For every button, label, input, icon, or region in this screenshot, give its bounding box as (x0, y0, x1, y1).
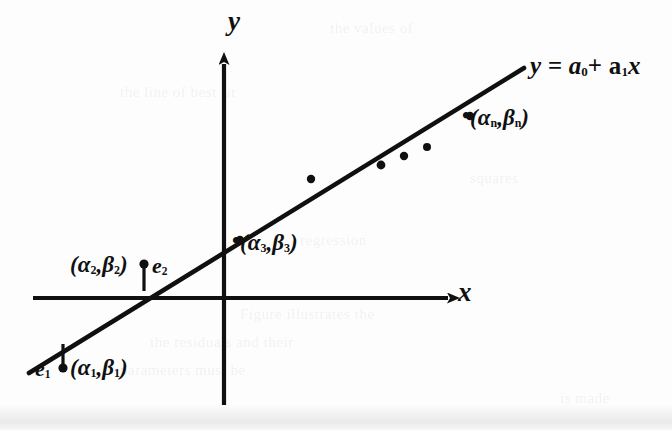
regression-equation-label: y = a0+ a1x (530, 52, 641, 80)
beta-symbol: β (102, 355, 114, 380)
error-subscript: 1 (45, 368, 51, 380)
alpha-symbol: α (248, 230, 261, 255)
data-point-alpha-1 (58, 363, 67, 372)
beta-symbol: β (272, 230, 284, 255)
paren-open: ( (240, 230, 248, 255)
beta-symbol: β (102, 252, 114, 277)
paren-open: ( (70, 355, 78, 380)
y-axis-label: y (228, 6, 240, 37)
residual-label-e1: e1 (35, 356, 50, 382)
equation-plus-term: + a (588, 52, 622, 79)
error-letter: e (152, 253, 162, 278)
point-label-alpha-3: •(α3,β3) (232, 228, 298, 256)
paren-close: ) (290, 230, 298, 255)
paren-close: ) (120, 355, 128, 380)
x-axis-label: x (458, 277, 472, 308)
data-point-alpha-2 (139, 259, 148, 268)
point-label-alpha-1: (α1,β1) (70, 355, 128, 381)
bullet-icon: • (232, 228, 240, 253)
regression-figure: the values of the line of best fit squar… (0, 0, 672, 430)
equation-lhs: y = a (530, 52, 581, 79)
point-label-alpha-2: (α2,β2) (70, 252, 128, 278)
data-point-scatter-b (377, 161, 386, 170)
paren-open: ( (470, 105, 478, 130)
paren-close: ) (521, 105, 529, 130)
alpha-symbol: α (78, 252, 91, 277)
data-point-scatter-c (400, 152, 408, 160)
data-point-scatter-d (423, 143, 431, 151)
error-subscript: 2 (162, 265, 168, 277)
paren-open: ( (70, 252, 78, 277)
bullet-icon: • (462, 103, 470, 128)
regression-line (29, 68, 524, 373)
alpha-symbol: α (78, 355, 91, 380)
equation-variable-x: x (628, 52, 641, 79)
beta-symbol: β (503, 105, 515, 130)
paren-close: ) (120, 252, 128, 277)
error-letter: e (35, 356, 45, 381)
residual-label-e2: e2 (152, 253, 167, 279)
alpha-symbol: α (478, 105, 491, 130)
data-point-scatter-a (307, 175, 315, 183)
point-label-alpha-n: •(αn,βn) (462, 103, 529, 131)
